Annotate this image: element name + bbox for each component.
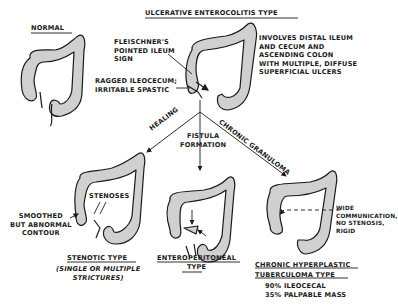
fistula-label: FISTULA FORMATION bbox=[180, 132, 226, 149]
hyperplastic-stats: 90% ILEOCECAL 35% PALPABLE MASS bbox=[265, 282, 346, 300]
hyperplastic-annotation: WIDE COMMUNICATION, NO STENOSIS, RIGID bbox=[336, 205, 398, 235]
ragged-annotation: RAGGED ILEOCECUM; IRRITABLE SPASTIC bbox=[95, 77, 177, 94]
stenotic-title: STENOTIC TYPE bbox=[67, 254, 127, 263]
normal-colon-illustration bbox=[21, 35, 84, 126]
hyperplastic-title: CHRONIC HYPERPLASTIC TUBERCULOMA TYPE bbox=[255, 260, 351, 280]
enteroperitoneal-colon-illustration bbox=[167, 177, 235, 262]
fleischner-annotation: FLEISCHNER'S POINTED ILEUM SIGN bbox=[114, 38, 175, 64]
ulcerative-description: INVOLVES DISTAL ILEUM AND CECUM AND ASCE… bbox=[259, 34, 357, 77]
stenoses-annotation: STENOSES bbox=[89, 192, 129, 201]
enteroperitoneal-title: ENTEROPERITONEAL TYPE bbox=[157, 254, 236, 271]
ulcerative-colon-illustration bbox=[186, 23, 257, 110]
page-title: ULCERATIVE ENTEROCOLITIS TYPE bbox=[145, 9, 278, 18]
normal-label: NORMAL bbox=[31, 24, 64, 33]
hyperplastic-colon-illustration bbox=[267, 171, 337, 254]
contour-annotation: SMOOTHED BUT ABNORMAL CONTOUR bbox=[10, 212, 72, 238]
stenotic-subtitle: (SINGLE OR MULTIPLE STRICTURES) bbox=[56, 265, 140, 282]
